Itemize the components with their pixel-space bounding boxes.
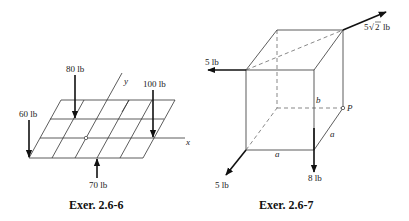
svg-text:2: 2 [375, 22, 380, 32]
force-label-5root2lb: 5 √ 2 lb [364, 22, 391, 32]
point-p-marker [341, 106, 344, 109]
dimension-a-bottom: a [275, 149, 280, 159]
plate-grid-figure: x y 80 lb 100 lb 60 lb 70 lb Exer. 2.6-6 [19, 64, 190, 212]
svg-text:lb: lb [383, 22, 391, 32]
force-label-70lb: 70 lb [89, 180, 108, 190]
cube-figure: 5 √ 2 lb 5 lb 5 lb 8 lb a a b P Exer. 2.… [205, 12, 391, 212]
force-label-80lb: 80 lb [66, 64, 85, 74]
cube-edges [246, 30, 343, 150]
y-axis [122, 100, 129, 112]
figure-caption-left: Exer. 2.6-6 [69, 198, 124, 212]
y-axis-extension [107, 73, 122, 100]
force-label-100lb: 100 lb [143, 79, 166, 89]
point-p-label: P [346, 103, 353, 113]
force-label-5lb-downleft: 5 lb [215, 180, 229, 190]
force-label-8lb: 8 lb [308, 173, 322, 183]
x-axis-label: x [185, 137, 190, 147]
figure-caption-right: Exer. 2.6-7 [259, 198, 314, 212]
cube-hidden-edges [246, 30, 343, 150]
diagram-canvas: x y 80 lb 100 lb 60 lb 70 lb Exer. 2.6-6 [0, 0, 409, 221]
origin-point [84, 136, 87, 139]
sqrt-symbol: √ [369, 22, 374, 32]
force-label-5lb-left: 5 lb [205, 57, 219, 67]
force-arrow-5lb-downleft [226, 150, 246, 175]
dimension-a-side: a [330, 129, 335, 139]
dimension-b: b [316, 95, 321, 105]
force-label-60lb: 60 lb [19, 109, 38, 119]
y-axis-label: y [123, 76, 128, 86]
